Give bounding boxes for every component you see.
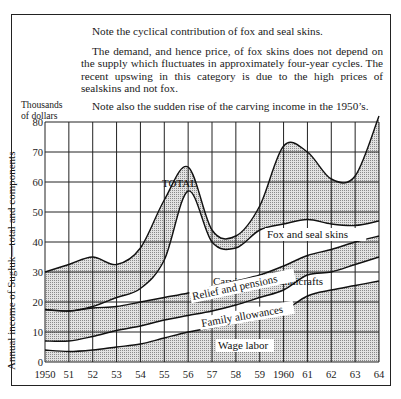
svg-text:Fox and seal skins: Fox and seal skins (267, 228, 348, 240)
svg-text:TOTAL: TOTAL (162, 177, 197, 189)
income-chart: 1950515253545556575859196061626364010203… (0, 0, 401, 399)
y-tick-label: 20 (32, 297, 43, 308)
x-tick-label: 51 (64, 369, 75, 380)
x-tick-label: 56 (183, 369, 194, 380)
label-total: TOTAL (162, 177, 197, 189)
label-wage-labor: Wage labor (216, 339, 274, 352)
y-tick-label: 50 (32, 207, 43, 218)
svg-text:Wage labor: Wage labor (218, 339, 268, 351)
x-tick-label: 1950 (34, 369, 55, 380)
y-tick-label: 10 (32, 327, 43, 338)
x-tick-label: 61 (302, 369, 313, 380)
y-tick-label: 30 (32, 267, 43, 278)
x-tick-label: 63 (350, 369, 361, 380)
x-tick-label: 62 (326, 369, 337, 380)
label-fox-seal-skins: Fox and seal skins (265, 228, 366, 241)
x-tick-label: 1960 (273, 369, 294, 380)
y-tick-label: 60 (32, 177, 43, 188)
x-tick-label: 59 (254, 369, 265, 380)
x-tick-label: 55 (159, 369, 170, 380)
y-tick-label: 70 (32, 147, 43, 158)
x-tick-label: 54 (135, 369, 146, 380)
x-tick-label: 52 (87, 369, 98, 380)
y-tick-label: 80 (32, 117, 43, 128)
x-tick-label: 58 (231, 369, 242, 380)
y-tick-label: 40 (32, 237, 43, 248)
x-tick-label: 64 (374, 369, 385, 380)
x-tick-label: 53 (111, 369, 122, 380)
x-tick-label: 57 (207, 369, 218, 380)
y-tick-label: 0 (38, 357, 43, 368)
